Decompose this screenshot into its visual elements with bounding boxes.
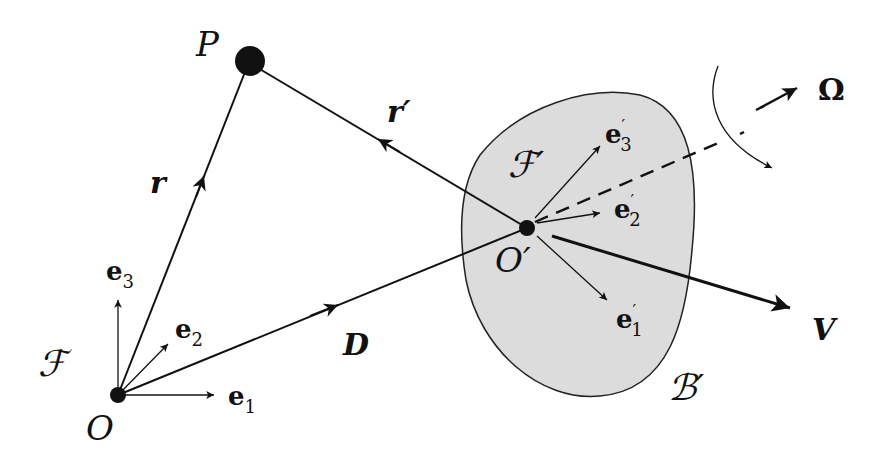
label-r-prime: r′ — [387, 94, 411, 129]
label-D: D — [342, 327, 369, 362]
vector-r-arrow — [196, 176, 204, 197]
label-e2: e2 — [175, 314, 203, 350]
label-r: r — [150, 165, 168, 200]
label-frame-F: ℱ — [38, 343, 72, 384]
label-V: V — [812, 312, 838, 347]
point-O-prime — [519, 220, 535, 236]
point-P — [235, 46, 265, 76]
label-frame-F-prime: ℱ′ — [508, 144, 544, 185]
label-P: P — [195, 24, 220, 64]
omega-axis-dashdot-a — [740, 132, 744, 134]
label-e1: e1 — [228, 381, 256, 417]
label-e3: e3 — [106, 256, 134, 292]
vector-r-line — [118, 72, 245, 395]
vector-D-arrow — [310, 305, 338, 316]
rotation-arc — [713, 66, 772, 168]
omega-arrow — [760, 88, 797, 108]
point-O — [110, 387, 126, 403]
label-Omega: Ω — [818, 72, 845, 107]
vector-r-prime-arrow — [378, 139, 400, 152]
rigid-body-frames-diagram: P O O′ r r′ D V Ω ℱ ℱ′ ℬ′ e1 e2 e3 e′1 e… — [0, 0, 888, 454]
label-body-B-prime: ℬ′ — [668, 367, 704, 408]
axis-e2 — [118, 344, 168, 395]
label-O: O — [86, 408, 114, 448]
label-O-prime: O′ — [495, 240, 531, 280]
